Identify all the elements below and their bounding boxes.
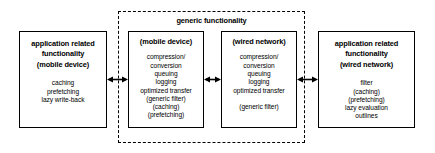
generic-wired-item-1: conversion [222,62,296,70]
generic-wired-item-2: queuing [222,70,296,78]
generic-mobile-item-7: (prefetching) [129,111,203,119]
app-wired-item-4: outlines [319,112,414,120]
app-wired-item-2: (prefetching) [319,96,414,104]
app-mobile-subtitle: (mobile device) [20,60,106,70]
connector-generic-wired-to-app-wired [297,75,318,84]
app-wired-title-line2: functionality [319,49,414,59]
diagram-canvas: generic functionality application relate… [0,0,435,153]
generic-mobile-item-4: optimized transfer [129,87,203,95]
generic-wired-item-0: compression/ [222,53,296,61]
app-wired-subtitle: (wired network) [319,60,414,70]
app-mobile-title-line2: functionality [20,49,106,59]
app-wired-title-line1: application related [319,39,414,49]
app-mobile-title-line1: application related [20,39,106,49]
double-arrow-icon [107,75,128,84]
generic-wired-item-6: (generic filter) [222,103,296,111]
generic-mobile-item-5: (generic filter) [129,95,203,103]
connector-generic-mobile-to-generic-wired [204,75,221,84]
generic-wired-item-5-spacer [222,95,296,103]
generic-wired-item-4: optimized transfer [222,87,296,95]
connector-app-mobile-to-generic-mobile [107,75,128,84]
generic-mobile-item-2: queuing [129,70,203,78]
generic-mobile-item-6: (caching) [129,103,203,111]
double-arrow-icon [204,75,221,84]
app-mobile-item-0: caching [20,79,106,87]
generic-mobile-item-1: conversion [129,62,203,70]
double-arrow-icon [297,75,318,84]
generic-wired-item-3: logging [222,78,296,86]
app-wired-item-0: filter [319,79,414,87]
box-generic-mobile-device: (mobile device) compression/ conversion … [128,31,204,128]
generic-mobile-item-0: compression/ [129,53,203,61]
app-mobile-item-2: lazy write-back [20,96,106,104]
generic-wired-subtitle: (wired network) [222,37,296,47]
box-application-related-functionality-wired-network: application related functionality (wired… [318,31,415,128]
box-generic-wired-network: (wired network) compression/ conversion … [221,31,297,128]
app-mobile-item-1: prefetching [20,88,106,96]
generic-mobile-subtitle: (mobile device) [129,37,203,47]
app-wired-item-1: (caching) [319,88,414,96]
box-application-related-functionality-mobile-device: application related functionality (mobil… [19,31,107,128]
app-wired-item-3: lazy evaluation [319,104,414,112]
generic-mobile-item-3: logging [129,78,203,86]
generic-functionality-label: generic functionality [119,16,304,25]
